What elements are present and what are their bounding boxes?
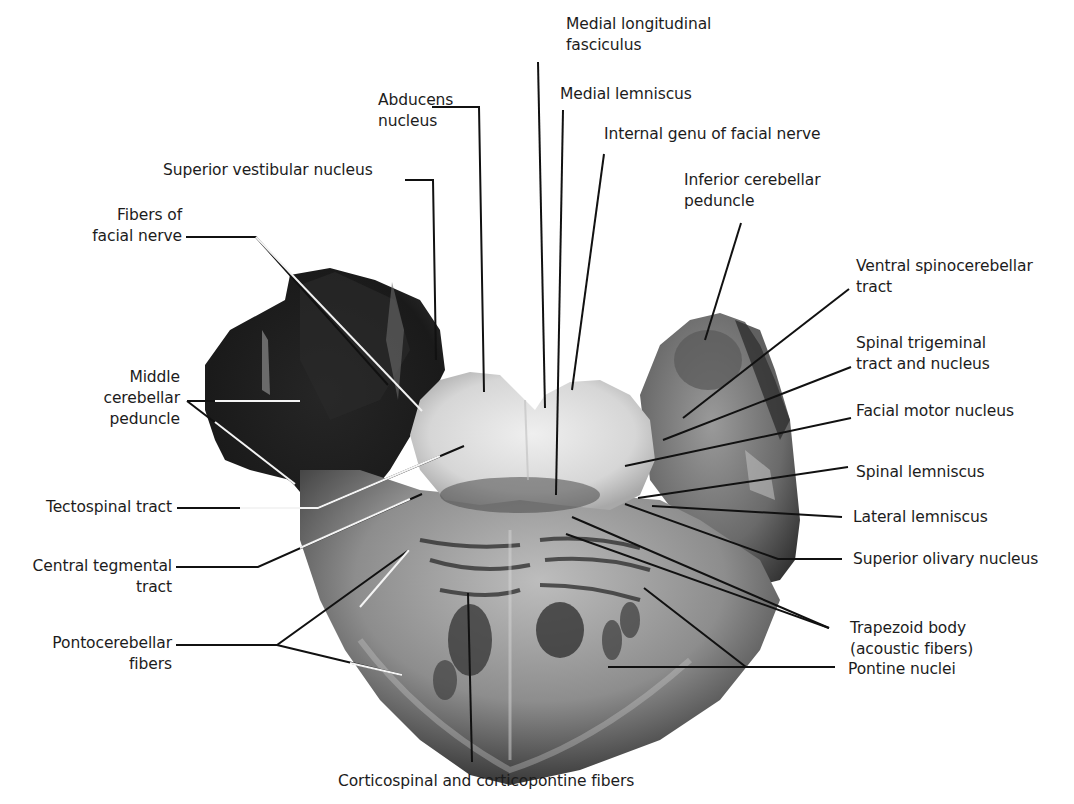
label-line: tract and nucleus (856, 354, 990, 375)
label-line: Ventral spinocerebellar (856, 256, 1033, 277)
label-tectospinal-tract: Tectospinal tract (0, 497, 172, 518)
label-middle-cerebellar-peduncle: Middle cerebellar peduncle (70, 367, 180, 430)
label-line: Superior vestibular nucleus (163, 160, 373, 181)
label-line: Corticospinal and corticopontine fibers (338, 771, 634, 792)
label-line: Spinal lemniscus (856, 462, 985, 483)
label-line: cerebellar (70, 388, 180, 409)
label-line: Middle (70, 367, 180, 388)
specimen-tegmentum (410, 372, 655, 513)
label-central-tegmental-tract: Central tegmental tract (0, 556, 172, 598)
leader-medial-longitudinal-fasciculus (538, 62, 545, 408)
label-line: Lateral lemniscus (853, 507, 988, 528)
label-line: Pontine nuclei (848, 659, 956, 680)
pons-section-figure: Medial longitudinal fasciculus Abducens … (0, 0, 1074, 804)
label-line: Inferior cerebellar (684, 170, 820, 191)
label-inferior-cerebellar-peduncle: Inferior cerebellar peduncle (684, 170, 820, 212)
label-line: Central tegmental (0, 556, 172, 577)
label-line: Facial motor nucleus (856, 401, 1014, 422)
label-line: Spinal trigeminal (856, 333, 990, 354)
label-fibers-of-facial-nerve: Fibers of facial nerve (70, 205, 182, 247)
label-line: Trapezoid body (850, 618, 973, 639)
label-line: nucleus (378, 111, 453, 132)
label-line: Medial lemniscus (560, 84, 692, 105)
label-line: (acoustic fibers) (850, 639, 973, 660)
label-line: facial nerve (70, 226, 182, 247)
label-line: peduncle (70, 409, 180, 430)
label-internal-genu-facial-nerve: Internal genu of facial nerve (604, 124, 821, 145)
label-line: peduncle (684, 191, 820, 212)
leader-internal-genu (572, 154, 604, 390)
label-corticospinal-corticopontine-fibers: Corticospinal and corticopontine fibers (338, 771, 634, 792)
label-line: Superior olivary nucleus (853, 549, 1038, 570)
label-superior-vestibular-nucleus: Superior vestibular nucleus (163, 160, 373, 181)
label-spinal-lemniscus: Spinal lemniscus (856, 462, 985, 483)
label-medial-longitudinal-fasciculus: Medial longitudinal fasciculus (566, 14, 711, 56)
label-spinal-trigeminal-tract-and-nucleus: Spinal trigeminal tract and nucleus (856, 333, 990, 375)
label-medial-lemniscus: Medial lemniscus (560, 84, 692, 105)
label-trapezoid-body: Trapezoid body (acoustic fibers) (850, 618, 973, 660)
label-line: Tectospinal tract (0, 497, 172, 518)
label-line: Abducens (378, 90, 453, 111)
label-superior-olivary-nucleus: Superior olivary nucleus (853, 549, 1038, 570)
label-line: Fibers of (70, 205, 182, 226)
label-line: tract (0, 577, 172, 598)
label-line: Internal genu of facial nerve (604, 124, 821, 145)
label-line: Medial longitudinal (566, 14, 711, 35)
label-line: tract (856, 277, 1033, 298)
label-line: fasciculus (566, 35, 711, 56)
label-ventral-spinocerebellar-tract: Ventral spinocerebellar tract (856, 256, 1033, 298)
label-line: Pontocerebellar (0, 633, 172, 654)
label-facial-motor-nucleus: Facial motor nucleus (856, 401, 1014, 422)
label-abducens-nucleus: Abducens nucleus (378, 90, 453, 132)
label-lateral-lemniscus: Lateral lemniscus (853, 507, 988, 528)
label-line: fibers (0, 654, 172, 675)
label-pontocerebellar-fibers: Pontocerebellar fibers (0, 633, 172, 675)
label-pontine-nuclei: Pontine nuclei (848, 659, 956, 680)
